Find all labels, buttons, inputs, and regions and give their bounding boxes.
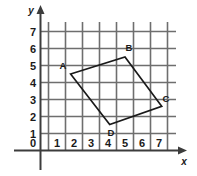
x-tick-label-3: 3	[88, 137, 94, 149]
x-tick-label-4: 4	[105, 137, 112, 149]
x-tick-label-0: 0	[30, 137, 36, 149]
y-tick-label-3: 3	[30, 94, 36, 106]
y-axis-tick-labels: 7 6 5 4 3 2 1	[30, 26, 37, 140]
x-tick-label-6: 6	[139, 137, 145, 149]
grid-horizontal-lines	[40, 32, 176, 134]
plot-canvas: 7 6 5 4 3 2 1 0 1 2 3 4 5 6 7 y x A B	[0, 0, 197, 176]
x-axis-tick-labels: 0 1 2 3 4 5 6 7	[30, 137, 162, 149]
x-tick-label-2: 2	[71, 137, 77, 149]
y-tick-label-2: 2	[30, 111, 36, 123]
x-axis-arrow-icon	[178, 147, 187, 155]
x-tick-label-1: 1	[54, 137, 60, 149]
coordinate-grid-figure: 7 6 5 4 3 2 1 0 1 2 3 4 5 6 7 y x A B	[0, 0, 197, 176]
vertex-label-a: A	[60, 60, 67, 71]
x-tick-label-7: 7	[156, 137, 162, 149]
y-axis-arrow-icon	[37, 5, 45, 14]
vertex-label-d: D	[108, 127, 115, 138]
x-axis-name-label: x	[180, 156, 187, 167]
y-tick-label-7: 7	[30, 26, 36, 38]
vertex-label-b: B	[126, 42, 133, 53]
vertex-label-c: C	[163, 93, 170, 104]
y-tick-label-6: 6	[30, 43, 36, 55]
x-tick-label-5: 5	[122, 137, 128, 149]
y-tick-label-4: 4	[30, 77, 37, 89]
y-axis-name-label: y	[27, 5, 34, 16]
y-tick-label-5: 5	[30, 60, 36, 72]
